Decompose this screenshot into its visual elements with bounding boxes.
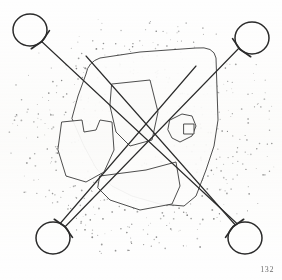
stipple-dot <box>227 157 228 158</box>
stipple-dot <box>70 208 71 209</box>
stipple-dot <box>98 208 100 210</box>
stipple-dot <box>181 40 182 41</box>
stipple-dot <box>68 205 69 206</box>
stipple-dot <box>145 29 146 30</box>
stipple-dot <box>120 30 122 32</box>
stipple-dot <box>47 148 48 149</box>
stipple-dot <box>50 162 51 163</box>
stipple-dot <box>51 161 52 162</box>
stipple-dot <box>132 46 134 48</box>
stipple-dot <box>38 179 39 180</box>
stipple-dot <box>27 109 29 111</box>
stipple-dot <box>269 110 271 112</box>
stipple-dot <box>186 246 187 247</box>
stipple-dot <box>201 195 203 197</box>
stipple-dot <box>171 230 172 231</box>
stipple-dot <box>105 233 106 234</box>
stipple-dot <box>52 126 54 128</box>
stipple-dot <box>27 111 28 112</box>
stipple-dot <box>232 82 233 83</box>
stipple-dot <box>142 45 143 46</box>
stipple-dot <box>127 226 128 227</box>
stipple-dot <box>236 213 237 214</box>
stipple-dot <box>21 119 23 121</box>
stipple-dot <box>51 128 52 129</box>
stipple-dot <box>77 42 78 43</box>
stipple-dot <box>61 80 62 81</box>
stipple-dot <box>245 151 246 152</box>
stipple-dot <box>37 118 38 119</box>
stipple-dot <box>50 114 52 116</box>
stipple-dot <box>216 158 218 160</box>
stipple-dot <box>80 223 81 224</box>
stipple-dot <box>236 151 238 153</box>
stipple-dot <box>75 65 77 67</box>
stipple-dot <box>273 167 274 168</box>
stipple-dot <box>60 197 61 198</box>
stipple-dot <box>248 193 250 195</box>
stipple-dot <box>235 63 237 65</box>
stipple-dot <box>219 213 220 214</box>
stipple-dot <box>250 153 252 155</box>
stipple-dot <box>94 214 95 215</box>
stipple-dot <box>190 203 191 204</box>
stipple-dot <box>197 229 198 230</box>
stipple-dot <box>221 189 222 190</box>
stipple-dot <box>93 207 94 208</box>
stipple-dot <box>48 92 50 94</box>
stipple-dot <box>9 131 11 133</box>
stipple-dot <box>84 198 85 199</box>
stipple-dot <box>74 84 75 85</box>
stipple-dot <box>248 154 249 155</box>
stipple-dot <box>232 163 233 164</box>
stipple-dot <box>111 230 112 231</box>
stipple-dot <box>221 130 223 132</box>
stipple-dot <box>102 218 104 220</box>
stipple-dot <box>269 119 270 120</box>
stipple-dot <box>186 214 188 216</box>
stipple-dot <box>98 19 99 20</box>
stipple-dot <box>17 125 18 126</box>
stipple-dot <box>193 41 194 42</box>
stipple-dot <box>83 216 84 217</box>
stipple-dot <box>177 41 178 42</box>
stipple-dot <box>223 177 225 179</box>
stipple-dot <box>247 122 249 124</box>
stipple-dot <box>129 49 131 51</box>
stipple-dot <box>155 48 156 49</box>
stipple-dot <box>177 32 178 33</box>
stipple-dot <box>254 106 255 107</box>
stipple-dot <box>24 176 25 177</box>
stipple-dot <box>115 250 117 252</box>
stipple-dot <box>256 148 257 149</box>
stipple-dot <box>217 128 218 129</box>
stipple-dot <box>23 191 25 193</box>
stipple-dot <box>219 119 220 120</box>
stipple-dot <box>232 113 233 114</box>
stipple-dot <box>129 226 130 227</box>
stipple-dot <box>52 202 53 203</box>
stipple-dot <box>153 239 155 241</box>
stipple-dot <box>14 119 16 121</box>
stipple-dot <box>226 193 228 195</box>
stipple-dot <box>100 29 101 30</box>
stipple-dot <box>256 64 257 65</box>
stipple-dot <box>186 212 187 213</box>
stipple-dot <box>262 174 264 176</box>
stipple-dot <box>55 170 56 171</box>
stipple-dot <box>78 57 80 59</box>
stipple-dot <box>28 75 29 76</box>
stipple-dot <box>263 98 265 100</box>
stipple-dot <box>64 114 65 115</box>
stipple-dot <box>202 27 204 29</box>
stipple-dot <box>51 68 52 69</box>
stipple-dot <box>131 243 132 244</box>
stipple-dot <box>130 237 131 238</box>
figure-page: 132 <box>0 0 282 280</box>
stipple-dot <box>218 92 219 93</box>
stipple-dot <box>166 45 168 47</box>
stipple-dot <box>124 45 125 46</box>
stipple-dot <box>56 148 57 149</box>
stipple-dot <box>44 134 45 135</box>
stipple-dot <box>10 152 11 153</box>
